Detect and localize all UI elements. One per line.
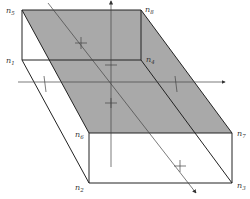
label-n5: n5 xyxy=(6,6,15,16)
diagram-canvas: n5 n8 n1 n4 n6 n7 n2 n3 xyxy=(0,0,250,199)
label-n2: n2 xyxy=(75,183,84,193)
label-n8: n8 xyxy=(145,5,154,15)
label-n7: n7 xyxy=(237,129,246,139)
label-n3: n3 xyxy=(237,181,246,191)
label-n1: n1 xyxy=(6,56,15,66)
shaded-plane xyxy=(22,10,232,133)
label-n6: n6 xyxy=(75,130,84,140)
